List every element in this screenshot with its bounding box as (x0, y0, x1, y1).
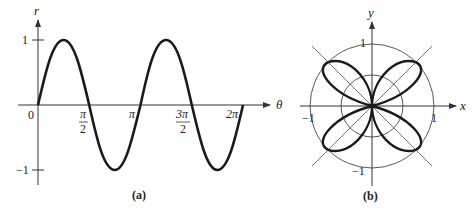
axis-label-r: r (34, 3, 40, 18)
tick-label-pi-half-num: π (80, 107, 87, 121)
axis-label-x: x (459, 98, 466, 113)
tick-label-r-neg: −1 (16, 163, 29, 177)
tick-label-y-pos: 1 (360, 36, 366, 50)
caption-b: (b) (363, 189, 378, 203)
tick-label-pi-half-den: 2 (80, 122, 86, 136)
panel-a-cartesian-plot: r θ 1 −1 0 π 2 π 3π 2 2π (a) (16, 3, 283, 202)
tick-label-y-neg: −1 (352, 164, 365, 178)
petal-q1 (372, 61, 421, 106)
tick-label-0: 0 (28, 108, 34, 122)
tick-label-3pi-half-den: 2 (180, 122, 186, 136)
axis-label-theta: θ (276, 97, 283, 112)
tick-label-2pi: 2π (226, 107, 239, 121)
petal-q2 (323, 61, 372, 106)
petal-q4 (372, 106, 421, 151)
panel-b-polar-plot: y x 1 −1 −1 1 (b) (300, 5, 466, 203)
tick-label-pi: π (129, 107, 136, 121)
petal-q3 (323, 106, 372, 151)
caption-a: (a) (132, 188, 146, 202)
figure: r θ 1 −1 0 π 2 π 3π 2 2π (a) y (0, 0, 476, 214)
tick-label-3pi-half-num: 3π (175, 107, 189, 121)
tick-label-x-pos: 1 (431, 111, 437, 125)
axis-label-y: y (366, 5, 374, 20)
tick-label-r-pos: 1 (22, 33, 28, 47)
tick-label-x-neg: −1 (302, 111, 315, 125)
